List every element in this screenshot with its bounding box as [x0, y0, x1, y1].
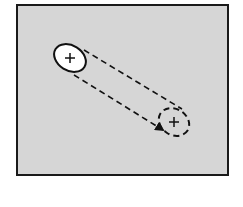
motion-diagram	[0, 0, 243, 207]
diagram-frame	[17, 5, 228, 175]
